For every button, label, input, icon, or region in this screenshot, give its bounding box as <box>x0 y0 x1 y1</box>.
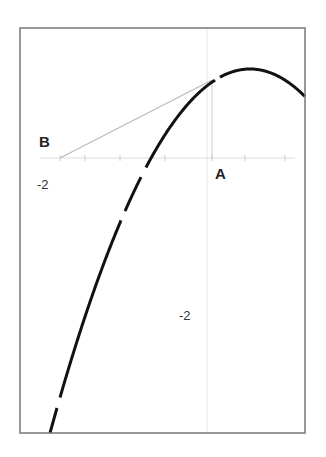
point-a-label: A <box>215 165 226 182</box>
plot-frame <box>20 28 305 433</box>
tangent-line <box>60 80 212 158</box>
curve <box>50 69 305 433</box>
point-b-label: B <box>39 133 50 150</box>
x-tick-label: -2 <box>37 177 49 192</box>
y-tick-label: -2 <box>179 308 191 323</box>
diagram-canvas <box>0 0 326 457</box>
x-axis <box>40 155 295 161</box>
